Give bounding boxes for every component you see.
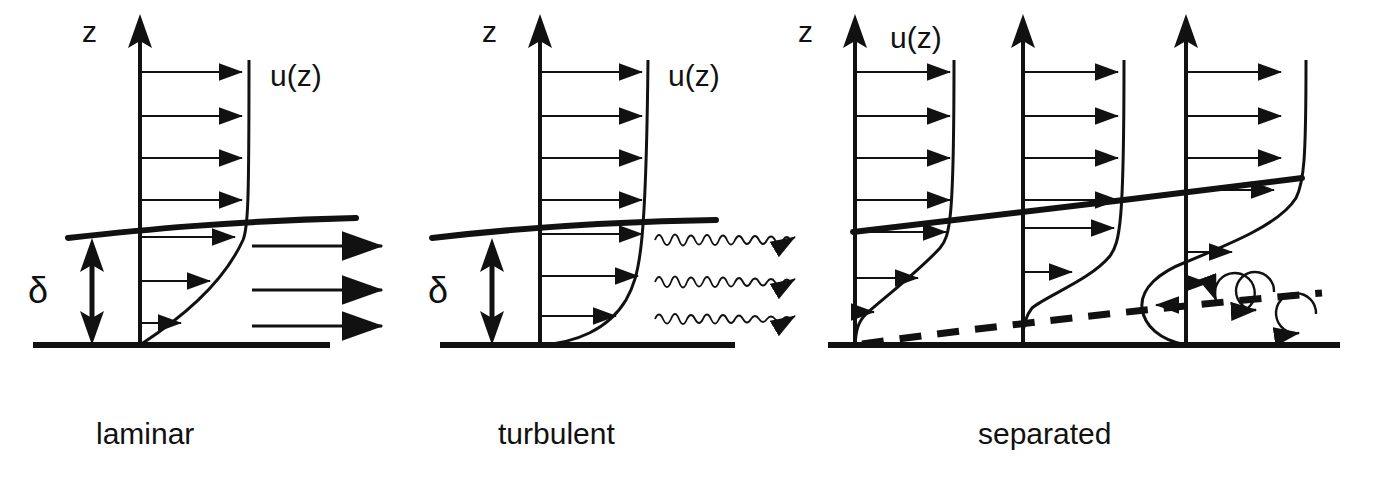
- boundary-layer-diagram: δ z u(z) laminar: [0, 0, 1389, 491]
- delta-label-turbulent: δ: [428, 270, 448, 311]
- boundary-layer-edge-separated: [853, 178, 1302, 232]
- profile-curve-turbulent: [540, 60, 648, 345]
- uz-label-separated: u(z): [890, 21, 942, 54]
- delta-arrow-turbulent: [480, 238, 504, 345]
- boundary-layer-edge-laminar: [68, 218, 356, 238]
- caption-turbulent: turbulent: [498, 417, 615, 450]
- eddy-swirls: [1215, 272, 1316, 333]
- eddy-icon-3: [1276, 293, 1316, 333]
- figure-canvas: δ z u(z) laminar: [0, 0, 1389, 491]
- freestream-arrows-laminar: [252, 246, 382, 326]
- wavy-arrows-turbulent: [655, 235, 795, 325]
- panel-laminar: δ z u(z) laminar: [28, 14, 382, 450]
- z-axis-label-separated: z: [798, 15, 813, 48]
- eddy-icon-1: [1215, 273, 1255, 313]
- delta-arrow-laminar: [80, 238, 104, 345]
- z-axis-turbulent: [528, 14, 552, 345]
- z-axis-laminar: [128, 14, 152, 345]
- panel-turbulent: δ z u(z) turbulent: [428, 14, 795, 450]
- z-axis-label-turbulent: z: [482, 15, 497, 48]
- caption-laminar: laminar: [96, 417, 194, 450]
- z-axis-label-laminar: z: [82, 15, 97, 48]
- station-2-separated: [1011, 14, 1124, 345]
- uz-label-laminar: u(z): [270, 59, 322, 92]
- uz-label-turbulent: u(z): [668, 59, 720, 92]
- delta-label-laminar: δ: [28, 270, 48, 311]
- profile-curve-station-3: [1142, 60, 1306, 345]
- profile-curve-station-1: [855, 60, 954, 345]
- station-1-separated: [843, 14, 954, 345]
- velocity-arrows-turbulent: [540, 72, 642, 316]
- velocity-arrows-laminar: [140, 72, 242, 323]
- panel-separated: z u(z) separated: [798, 14, 1340, 450]
- profile-curve-laminar: [140, 60, 249, 345]
- caption-separated: separated: [978, 417, 1111, 450]
